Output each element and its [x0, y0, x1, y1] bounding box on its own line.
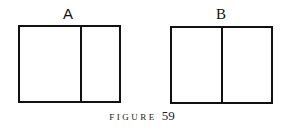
caption-number: 59 — [162, 108, 175, 123]
panel-b-label: B — [216, 7, 226, 22]
figure-caption: FIGURE 59 — [0, 108, 284, 124]
panel-a-rectangle — [18, 25, 121, 103]
panel-a-label: A — [63, 6, 73, 21]
panel-b-rectangle — [170, 26, 273, 104]
panel-b-divider — [221, 28, 223, 102]
caption-word: FIGURE — [109, 112, 157, 122]
panel-a-divider — [80, 27, 82, 101]
